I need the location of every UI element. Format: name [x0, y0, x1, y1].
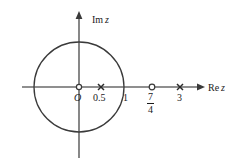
imaginary-axis-label-text: Im: [92, 14, 103, 25]
imaginary-axis-variable: z: [105, 14, 109, 25]
tick-label-seven-fourths: 7 4: [147, 92, 154, 115]
complex-plane-figure: Imz Rez O 0.5 1 7 4 3: [0, 0, 238, 168]
origin-open-circle-marker: [76, 84, 81, 89]
real-axis-label-text: Re: [208, 82, 219, 93]
real-axis-arrowhead: [197, 83, 205, 90]
open-circle-marker-seven-fourths: [149, 84, 155, 90]
fraction-numerator: 7: [147, 92, 154, 103]
real-axis-variable: z: [221, 82, 225, 93]
tick-label-zero-point-five: 0.5: [93, 93, 106, 103]
fraction-denominator: 4: [147, 104, 154, 115]
origin-label: O: [74, 93, 81, 103]
tick-label-one: 1: [123, 93, 128, 103]
imaginary-axis-label: Imz: [92, 15, 109, 25]
imaginary-axis-arrowhead: [76, 11, 83, 19]
complex-plane-svg: [0, 0, 238, 168]
tick-label-three: 3: [177, 93, 182, 103]
real-axis-label: Rez: [208, 83, 225, 93]
